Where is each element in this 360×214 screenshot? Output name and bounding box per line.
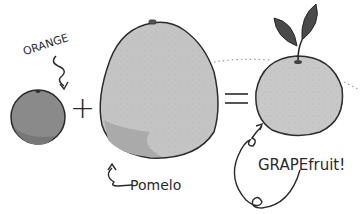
pomelo-fruit bbox=[100, 20, 218, 158]
grapefruit-label: GRAPEfruit! bbox=[258, 156, 345, 174]
dotted-line bbox=[214, 59, 270, 62]
pomelo-label: Pomelo bbox=[130, 177, 181, 193]
orange-label: ORANGE bbox=[21, 31, 70, 58]
pomelo-arrow bbox=[108, 168, 132, 186]
orange-arrow bbox=[53, 56, 64, 86]
dotted-line-right bbox=[344, 82, 360, 90]
grapefruit-fruit bbox=[256, 56, 343, 136]
leaf-icon bbox=[274, 4, 317, 60]
plus-sign: + bbox=[70, 90, 95, 125]
orange-fruit bbox=[11, 90, 65, 145]
fruit-equation-illustration: ORANGE + Pomelo GRAPEfruit! bbox=[0, 0, 360, 214]
equals-sign bbox=[225, 94, 248, 103]
